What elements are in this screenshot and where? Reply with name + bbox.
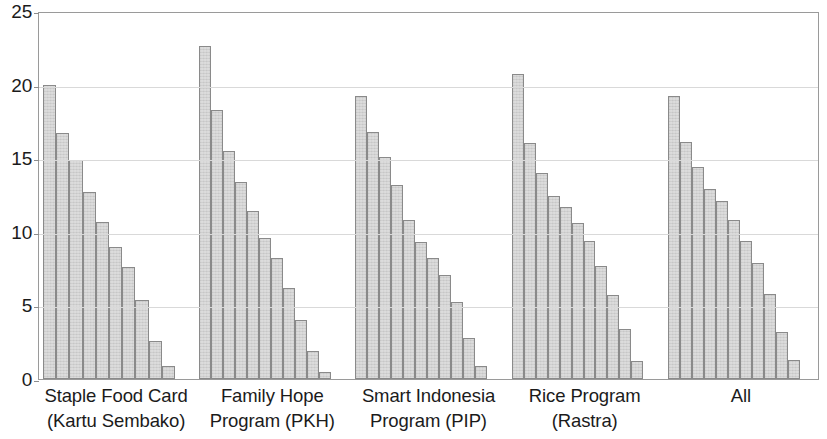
y-axis-tick bbox=[34, 307, 39, 308]
bar bbox=[149, 341, 162, 379]
bar bbox=[391, 185, 403, 379]
x-axis-category-line: Smart Indonesia bbox=[350, 384, 506, 409]
bar bbox=[415, 242, 427, 379]
bar bbox=[307, 351, 319, 379]
bar bbox=[295, 320, 307, 379]
x-axis-category-line: Family Hope bbox=[194, 384, 350, 409]
y-axis-tick bbox=[34, 234, 39, 235]
bar bbox=[752, 263, 764, 379]
bar bbox=[475, 366, 487, 379]
bar bbox=[96, 222, 109, 380]
bar bbox=[692, 167, 704, 379]
x-axis-category-line: Rice Program bbox=[507, 384, 663, 409]
bar bbox=[319, 372, 331, 379]
bar bbox=[211, 110, 223, 379]
bar bbox=[162, 366, 175, 379]
bar bbox=[403, 220, 415, 379]
bar-group bbox=[668, 13, 800, 379]
bar bbox=[43, 85, 56, 379]
bar bbox=[122, 267, 135, 379]
y-axis-tick bbox=[34, 87, 39, 88]
bar bbox=[776, 332, 788, 379]
x-axis-category-line: Program (PIP) bbox=[350, 409, 506, 434]
bar bbox=[223, 151, 235, 379]
bar bbox=[199, 46, 211, 379]
bar bbox=[56, 133, 69, 379]
bar bbox=[235, 182, 247, 379]
bar bbox=[668, 96, 680, 379]
x-axis-category-label: Staple Food Card(Kartu Sembako) bbox=[38, 384, 194, 434]
bar bbox=[788, 360, 800, 379]
bar bbox=[619, 329, 631, 379]
x-axis-category-line: All bbox=[663, 384, 819, 409]
y-axis-tick bbox=[34, 13, 39, 14]
x-axis-category-line: (Kartu Sembako) bbox=[38, 409, 194, 434]
y-axis-tick-label: 20 bbox=[0, 76, 32, 95]
bar-groups-layer bbox=[39, 13, 818, 379]
bar bbox=[83, 192, 96, 379]
bar bbox=[135, 300, 148, 379]
y-axis-tick bbox=[34, 160, 39, 161]
y-axis-tick-label: 0 bbox=[0, 370, 32, 389]
gridline bbox=[39, 307, 818, 308]
bar bbox=[271, 258, 283, 379]
y-axis: 0510152025 bbox=[0, 0, 32, 439]
bar-group bbox=[355, 13, 487, 379]
bar bbox=[283, 288, 295, 379]
bar bbox=[631, 361, 643, 379]
bar bbox=[595, 266, 607, 379]
gridline bbox=[39, 234, 818, 235]
bar bbox=[560, 207, 572, 379]
y-axis-tick-label: 10 bbox=[0, 223, 32, 242]
x-axis-category-label: All bbox=[663, 384, 819, 409]
x-axis-category-line: Staple Food Card bbox=[38, 384, 194, 409]
bar bbox=[524, 143, 536, 379]
bar-group bbox=[512, 13, 644, 379]
x-axis-category-label: Rice Program(Rastra) bbox=[507, 384, 663, 434]
bar bbox=[439, 275, 451, 380]
y-axis-tick-label: 5 bbox=[0, 296, 32, 315]
gridline bbox=[39, 160, 818, 161]
plot-area bbox=[38, 12, 819, 380]
y-axis-tick-label: 25 bbox=[0, 2, 32, 21]
x-axis-category-line: (Rastra) bbox=[507, 409, 663, 434]
gridline bbox=[39, 87, 818, 88]
bar bbox=[247, 211, 259, 379]
bar bbox=[109, 247, 122, 379]
x-axis-category-labels: Staple Food Card(Kartu Sembako)Family Ho… bbox=[38, 384, 819, 439]
bar bbox=[548, 196, 560, 379]
bar-group bbox=[43, 13, 175, 379]
x-axis-category-line: Program (PKH) bbox=[194, 409, 350, 434]
y-axis-tick-label: 15 bbox=[0, 149, 32, 168]
bar bbox=[740, 241, 752, 379]
bar bbox=[680, 142, 692, 379]
bar bbox=[367, 132, 379, 379]
bar bbox=[728, 220, 740, 379]
bar bbox=[716, 201, 728, 379]
bar bbox=[355, 96, 367, 379]
bar bbox=[451, 302, 463, 379]
bar bbox=[463, 338, 475, 379]
bar bbox=[427, 258, 439, 379]
bar bbox=[512, 74, 524, 379]
bar-chart: 0510152025 Staple Food Card(Kartu Sembak… bbox=[0, 0, 827, 439]
bar bbox=[572, 223, 584, 379]
bar bbox=[584, 241, 596, 379]
bar-group bbox=[199, 13, 331, 379]
bar bbox=[379, 157, 391, 379]
x-axis-category-label: Smart IndonesiaProgram (PIP) bbox=[350, 384, 506, 434]
x-axis-category-label: Family HopeProgram (PKH) bbox=[194, 384, 350, 434]
bar bbox=[704, 189, 716, 379]
bar bbox=[69, 160, 82, 379]
bar bbox=[536, 173, 548, 379]
y-axis-tick bbox=[34, 381, 39, 382]
